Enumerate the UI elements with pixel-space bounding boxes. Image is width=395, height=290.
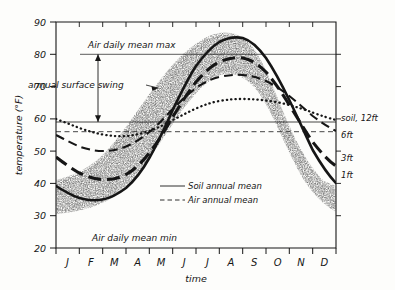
annotation-annual-surface-swing: annual surface swing xyxy=(28,80,124,90)
y-tick-40: 40 xyxy=(34,178,46,189)
x-tick-mar: M xyxy=(110,257,119,268)
y-axis: 20 30 40 50 60 70 80 90 temperature (°F) xyxy=(13,17,56,254)
x-tick-apr: A xyxy=(133,257,141,268)
x-axis-title: time xyxy=(185,273,207,284)
y-tick-30: 30 xyxy=(34,210,46,221)
legend-label-air-annual-mean: Air annual mean xyxy=(187,195,258,205)
x-tick-jun: J xyxy=(181,257,186,268)
y-axis-ticks xyxy=(50,22,56,248)
x-axis-ticks-bottom xyxy=(56,248,336,254)
annotation-air-daily-mean-min: Air daily mean min xyxy=(91,233,177,243)
legend-label-soil-annual-mean: Soil annual mean xyxy=(188,181,262,191)
annotation-air-daily-mean-max: Air daily mean max xyxy=(87,40,176,50)
x-tick-sep: S xyxy=(251,257,258,268)
y-axis-title: temperature (°F) xyxy=(13,95,24,176)
figure-screen: 20 30 40 50 60 70 80 90 temperature (°F) xyxy=(0,0,395,290)
series-label-soil-12ft: soil, 12ft xyxy=(341,113,379,123)
x-tick-may: M xyxy=(157,257,166,268)
series-labels: soil, 12ft 6ft 3ft 1ft xyxy=(341,113,379,180)
y-tick-50: 50 xyxy=(34,146,46,157)
x-tick-feb: F xyxy=(88,257,94,268)
temperature-chart: 20 30 40 50 60 70 80 90 temperature (°F) xyxy=(0,0,395,290)
x-tick-oct: O xyxy=(274,257,282,268)
y-tick-80: 80 xyxy=(34,49,46,60)
series-label-soil-6ft: 6ft xyxy=(341,130,353,140)
legend: Soil annual mean Air annual mean xyxy=(160,181,262,205)
y-tick-90: 90 xyxy=(34,17,46,28)
series-label-soil-1ft: 1ft xyxy=(341,170,353,180)
x-tick-nov: N xyxy=(297,257,305,268)
x-tick-jan: J xyxy=(64,257,69,268)
x-tick-jul: J xyxy=(204,257,209,268)
x-tick-dec: D xyxy=(320,257,328,268)
x-tick-aug: A xyxy=(227,257,235,268)
series-label-soil-3ft: 3ft xyxy=(341,153,353,163)
y-tick-20: 20 xyxy=(34,243,46,254)
y-tick-60: 60 xyxy=(34,113,46,124)
x-axis-ticks-top xyxy=(79,22,312,27)
